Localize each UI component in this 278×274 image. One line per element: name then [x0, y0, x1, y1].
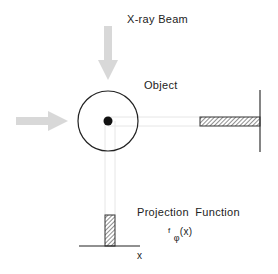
- function-argument: (x): [180, 226, 193, 237]
- projection-function-label: Projection Function: [137, 206, 240, 218]
- projection-diagram: [0, 0, 278, 274]
- vertical-projection-bar: [105, 215, 115, 246]
- horizontal-beam-arrow-icon: [16, 111, 68, 131]
- ray-lines: [105, 117, 200, 215]
- vertical-beam-arrow-icon: [98, 26, 118, 80]
- function-symbol: f: [168, 226, 171, 235]
- x-axis-label: x: [137, 250, 142, 261]
- object-point: [104, 117, 113, 126]
- beam-label: X-ray Beam: [127, 13, 188, 25]
- horizontal-projection-bar: [200, 117, 260, 126]
- function-subscript: φ: [174, 233, 180, 243]
- object-label: Object: [144, 79, 178, 91]
- function-notation: f φ(x): [168, 226, 192, 237]
